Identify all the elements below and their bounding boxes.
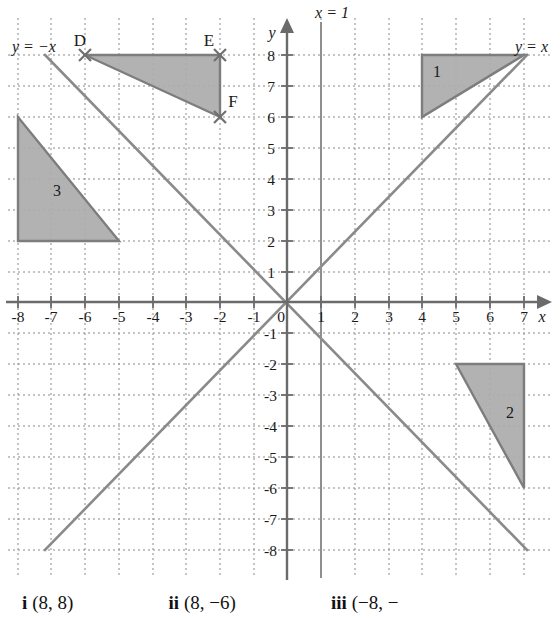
y-tick-label: 5 [267,140,275,157]
coordinate-graph: -8 -7 -6 -5 -4 -3 -2 -1 1 2 3 4 5 6 7 8 … [0,0,560,618]
x-tick-label: -2 [214,308,227,325]
point-label-d: D [74,31,86,50]
x-tick-label: 4 [418,308,426,325]
line-label-y-equals-x: y = x [513,38,548,56]
answer-item-ii: ii (8, −6) [168,592,235,614]
y-tick-label: -5 [264,449,277,466]
x-tick-label: -6 [79,308,92,325]
answer-value-iii: (−8, − [352,592,399,614]
answer-value-i: (8, 8) [32,592,73,614]
y-tick-label: -7 [264,511,277,528]
x-tick-label: -5 [113,308,126,325]
origin-label: 0 [277,308,285,325]
y-axis-label: y [266,24,276,42]
x-tick-label: -7 [45,308,58,325]
y-tick-label: 1 [267,264,275,281]
x-tick-label: 3 [385,308,393,325]
x-tick-label: -8 [12,308,25,325]
x-tick-label: 2 [351,308,359,325]
answer-line: i (8, 8) ii (8, −6) iii (−8, − [0,592,560,618]
triangle-def [85,55,220,117]
answer-value-ii: (8, −6) [184,592,236,614]
answer-item-iii: iii (−8, − [331,592,399,614]
y-tick-label: 2 [267,233,275,250]
y-tick-label: 7 [267,78,275,95]
x-axis-tick-labels: -8 -7 -6 -5 -4 -3 -2 -1 1 2 3 4 5 6 7 [12,308,529,325]
x-tick-label: 7 [520,308,528,325]
point-label-e: E [204,31,214,50]
line-label-x-equals-1: x = 1 [314,4,349,21]
x-tick-label: 5 [452,308,460,325]
y-tick-label: -6 [264,480,277,497]
y-tick-label: 6 [267,109,275,126]
y-tick-label: -2 [264,356,277,373]
y-tick-label: -1 [264,325,277,342]
shape-label-2: 2 [506,404,514,421]
answer-key-iii: iii [331,592,347,614]
y-tick-label: 3 [267,202,275,219]
answer-key-i: i [22,592,27,614]
y-tick-label: 4 [267,171,275,188]
x-tick-label: -4 [147,308,160,325]
y-tick-label: 8 [267,47,275,64]
point-label-f: F [228,92,237,111]
shape-label-1: 1 [433,63,441,80]
shape-label-3: 3 [53,182,61,199]
x-axis-label: x [537,308,545,325]
x-tick-label: -3 [180,308,193,325]
x-tick-label: 6 [486,308,494,325]
y-tick-label: -4 [264,418,277,435]
x-tick-label: -1 [248,308,261,325]
line-label-y-equals-negative-x: y = −x [10,38,56,56]
y-tick-label: -8 [264,542,277,559]
answer-item-i: i (8, 8) [22,592,73,614]
answer-key-ii: ii [168,592,179,614]
y-tick-label: -3 [264,387,277,404]
x-tick-label: 1 [317,308,325,325]
